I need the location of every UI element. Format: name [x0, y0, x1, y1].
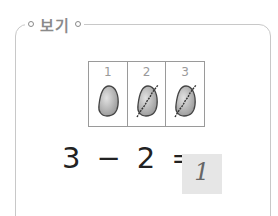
egg-count-table: 1 2 3: [88, 61, 205, 127]
table-cell-3: 3: [166, 62, 204, 126]
cell-number: 1: [89, 65, 127, 79]
cell-number: 3: [166, 65, 204, 79]
table-cell-1: 1: [89, 62, 128, 126]
example-legend: 보기: [25, 12, 84, 36]
egg-icon: [97, 84, 120, 118]
cell-number: 2: [128, 65, 166, 79]
equation-operator: −: [96, 141, 120, 175]
equation: 3 − 2 =: [62, 141, 196, 175]
answer-box[interactable]: 1: [182, 154, 222, 194]
equation-left: 3: [62, 141, 80, 175]
equation-right: 2: [137, 141, 155, 175]
example-title: 보기: [40, 14, 69, 35]
answer-value: 1: [182, 158, 222, 186]
table-cell-2: 2: [128, 62, 167, 126]
legend-dot-right-icon: [75, 21, 81, 27]
egg-crossed-icon: [174, 84, 197, 118]
legend-dot-left-icon: [28, 21, 34, 27]
egg-crossed-icon: [136, 84, 159, 118]
